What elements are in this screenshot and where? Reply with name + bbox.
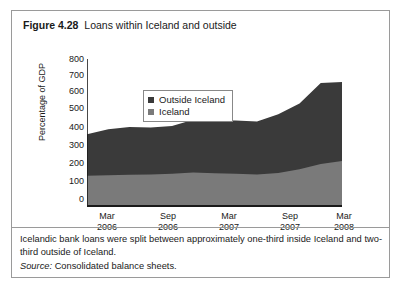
source-label: Source: [20, 261, 52, 271]
figure-source: Source: Consolidated balance sheets. [20, 260, 382, 272]
figure-title-text: Loans within Iceland and outside [84, 19, 236, 31]
x-tick-mar-2007: Mar 2007 [200, 211, 258, 233]
figure-number: Figure 4.28 [23, 19, 78, 31]
figure-title: Figure 4.28 Loans within Iceland and out… [23, 19, 237, 31]
x-tick-sep-2007: Sep 2007 [261, 211, 319, 233]
x-tick-mar-2008: Mar 2008 [315, 211, 373, 233]
y-tick-300: 300 [50, 141, 84, 150]
y-axis-ticks: 800 700 600 500 400 300 200 100 0 [50, 37, 84, 187]
legend-swatch-outside-iceland [148, 97, 154, 103]
y-tick-0: 0 [50, 195, 84, 204]
legend-item-outside-iceland: Outside Iceland [148, 94, 225, 106]
stacked-area-chart [87, 59, 342, 207]
legend-swatch-iceland [148, 109, 154, 115]
chart-area: Percentage of GDP 800 700 600 500 400 30… [12, 37, 389, 220]
legend-item-iceland: Iceland [148, 106, 225, 118]
x-tick-mar-2006: Mar 2006 [78, 211, 136, 233]
y-tick-800: 800 [50, 55, 84, 64]
y-tick-200: 200 [50, 159, 84, 168]
y-tick-600: 600 [50, 87, 84, 96]
y-axis-label: Percentage of GDP [37, 47, 47, 157]
plot-region [87, 59, 342, 207]
y-tick-400: 400 [50, 123, 84, 132]
x-tick-sep-2006: Sep 2006 [139, 211, 197, 233]
legend-label-outside-iceland: Outside Iceland [159, 94, 225, 106]
y-tick-500: 500 [50, 104, 84, 113]
chart-legend: Outside Iceland Iceland [143, 90, 233, 122]
legend-label-iceland: Iceland [159, 106, 190, 118]
figure-container: Figure 4.28 Loans within Iceland and out… [11, 10, 390, 278]
y-tick-100: 100 [50, 177, 84, 186]
caption-divider [12, 227, 389, 228]
source-text: Consolidated balance sheets. [55, 261, 177, 271]
y-tick-700: 700 [50, 71, 84, 80]
figure-caption: Icelandic bank loans were split between … [20, 233, 382, 258]
